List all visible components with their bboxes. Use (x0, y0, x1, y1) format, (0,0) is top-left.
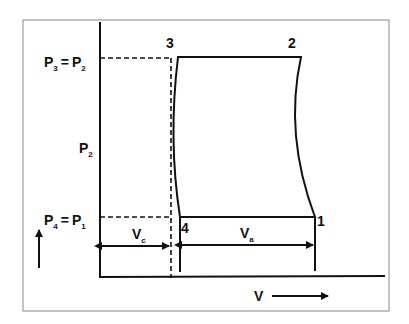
p2-label: P2 (79, 140, 93, 159)
p4-equals-p1-label: P4=P1 (44, 212, 86, 231)
point-3-label: 3 (166, 35, 174, 51)
cycle-path (173, 57, 315, 217)
p3-equals-p2-label: P3=P2 (44, 54, 86, 73)
point-1-label: 1 (317, 213, 325, 229)
point-2-label: 2 (288, 35, 296, 51)
volume-axis (99, 276, 385, 277)
volume-axis-label: V (254, 288, 264, 304)
swept-volume-label: Va (240, 225, 254, 244)
clearance-volume-label: Vc (132, 226, 146, 245)
point-4-label: 4 (181, 220, 189, 236)
pv-diagram: 3 2 1 4 P3=P2 P2 P4=P1 Vc Va V (0, 0, 409, 324)
